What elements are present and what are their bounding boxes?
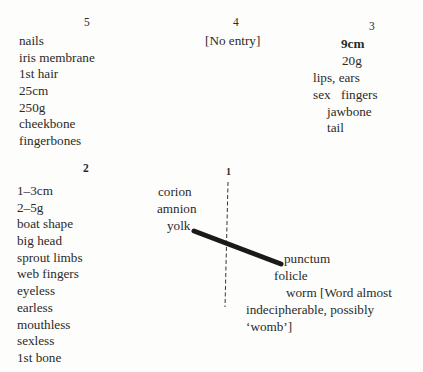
stage-1-diagram [0,0,423,372]
stage-1-thick-bar [194,231,281,264]
